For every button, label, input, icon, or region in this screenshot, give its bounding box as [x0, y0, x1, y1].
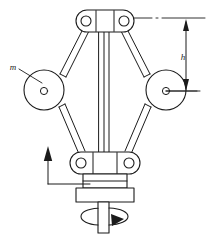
governor-diagram: h m	[0, 0, 210, 238]
right-flyball-mass	[146, 70, 197, 110]
center-spindle-rod	[99, 27, 109, 164]
height-label: h	[181, 52, 186, 62]
sleeve-flange	[76, 188, 134, 202]
upper-left-link	[60, 29, 89, 77]
governor-figure: h m	[0, 0, 210, 238]
upper-right-link	[121, 29, 150, 77]
lower-left-link	[59, 104, 85, 154]
up-arrowhead	[44, 146, 52, 161]
sleeve-collar	[83, 174, 127, 188]
top-pivot-hub	[76, 10, 134, 32]
drive-shaft	[98, 202, 109, 233]
mass-label: m	[10, 62, 17, 72]
dimension-arrowhead-top	[183, 19, 189, 31]
sleeve-pivot-hub	[70, 152, 140, 174]
lower-right-link	[125, 104, 151, 154]
